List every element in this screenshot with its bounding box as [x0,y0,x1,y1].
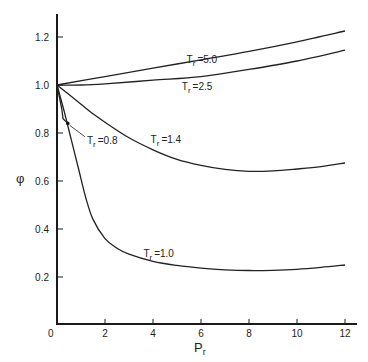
y-tick-label: 1.0 [35,80,49,91]
leader-line-tr-0-8 [70,125,85,136]
y-tick-label: 0.4 [35,224,49,235]
x-tick-label: 10 [291,328,303,339]
curve-tr-1-4 [57,85,345,171]
y-tick-label: 0.8 [35,128,49,139]
y-tick-label: 0.6 [35,176,49,187]
x-tick-label: 6 [198,328,204,339]
x-axis-label-main: P [194,340,203,355]
marker-tr-0-8 [66,122,70,126]
curve-labels: Tr=5.0Tr=2.5Tr=1.4Tr=1.0Tr=0.8 [87,54,218,261]
y-ticks: 0.20.40.60.81.01.2 [35,32,63,283]
label-tr-0-8: Tr=0.8 [87,135,118,149]
curve-tr-1-0 [57,85,345,271]
x-tick-label: 0 [48,328,54,339]
curves [57,31,345,271]
y-tick-label: 1.2 [35,32,49,43]
chart: 024681012 0.20.40.60.81.01.2 Tr=5.0Tr=2.… [0,0,368,362]
label-tr-2-5: Tr=2.5 [182,81,213,95]
label-tr-5-0: Tr=5.0 [187,54,218,68]
y-axis-label: φ [16,171,24,186]
x-ticks: 024681012 [48,319,351,339]
x-axis-label: Pr [194,340,206,357]
x-tick-label: 2 [102,328,108,339]
y-tick-label: 0.2 [35,272,49,283]
x-axis-label-sub: r [203,347,206,357]
x-tick-label: 12 [339,328,351,339]
x-tick-label: 8 [246,328,252,339]
x-tick-label: 4 [150,328,156,339]
label-tr-1-4: Tr=1.4 [151,134,182,148]
